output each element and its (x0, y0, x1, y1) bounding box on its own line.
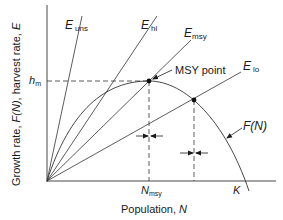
label-e-lo: Elo (243, 59, 260, 74)
x-axis-title: Population, N (121, 203, 187, 215)
harvest-line-e-lo (47, 72, 241, 181)
label-hm: hm (29, 74, 41, 87)
msy-point (147, 79, 152, 84)
harvest-line-e-msy (47, 40, 191, 181)
label-nmsy: Nmsy (141, 184, 162, 198)
label-e-hi: Ehi (141, 18, 157, 33)
label-e-uns: Euns (65, 18, 88, 33)
fn-pointer-arrow (227, 128, 242, 138)
label-e-msy: Emsy (184, 26, 207, 41)
harvest-line-e-uns (47, 16, 82, 181)
label-fn-curve: F(N) (243, 119, 267, 133)
harvest-line-e-hi (47, 16, 157, 181)
label-msy-point: MSY point (175, 64, 226, 76)
elo-equilibrium-point (192, 98, 197, 103)
y-axis-title: Growth rate, F(N), harvest rate, E (10, 22, 22, 186)
msy-diagram: Euns Ehi Emsy Elo MSY point F(N) hm Nmsy… (0, 0, 283, 220)
label-k: K (233, 184, 241, 196)
